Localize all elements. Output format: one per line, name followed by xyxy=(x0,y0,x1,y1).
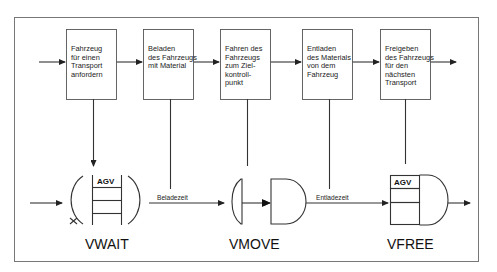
agv-process-diagram: Fahrzeug für einen Transport anfordern B… xyxy=(0,0,497,272)
vmove-node: VMOVE xyxy=(229,179,306,252)
vfree-gate xyxy=(420,175,449,225)
queue-slot xyxy=(391,203,420,225)
process-step-4: Entladen des Materials von dem Fahrzeug xyxy=(303,30,354,100)
queue-slot xyxy=(391,189,420,203)
process-step-2: Beladen des Fahrzeugs mit Material xyxy=(144,30,199,100)
process-step-text: Fahrzeug für einen Transport anfordern xyxy=(71,44,104,79)
process-step-1: Fahrzeug für einen Transport anfordern xyxy=(67,30,117,100)
vmove-label: VMOVE xyxy=(229,236,280,252)
vmove-left-half xyxy=(232,179,242,224)
vfree-queue-label: AGV xyxy=(394,178,412,187)
vwait-left-arc xyxy=(71,176,83,224)
vwait-node: AGV VWAIT xyxy=(70,175,140,252)
vfree-label: VFREE xyxy=(387,236,434,252)
vwait-label: VWAIT xyxy=(85,236,129,252)
vmove-right-gate xyxy=(271,179,306,224)
process-step-5: Freigeben des Fahrzeugs für den nächsten… xyxy=(381,30,436,100)
edge-entladezeit-label: Entladezeit xyxy=(316,194,349,201)
vmove-arrowhead xyxy=(262,199,270,207)
process-step-3: Fahren des Fahrzeugs zum Ziel- kontroll-… xyxy=(221,30,271,100)
vwait-queue-label: AGV xyxy=(97,177,115,186)
vwait-right-arc xyxy=(128,176,140,224)
vfree-node: AGV VFREE xyxy=(387,175,448,252)
edge-beladezeit-label: Beladezeit xyxy=(157,194,188,201)
